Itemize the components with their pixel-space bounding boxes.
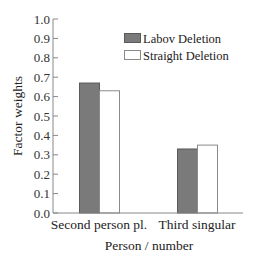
y-tick-label: 0.0 (34, 206, 50, 221)
x-axis-title: Person / number (105, 238, 194, 253)
bar-straight-deletion (100, 91, 120, 213)
x-axis: Second person pl.Third singular (51, 213, 243, 232)
y-axis-title: Factor weights (10, 76, 25, 156)
y-tick-label: 0.9 (34, 31, 50, 46)
bars (80, 83, 218, 213)
y-tick-label: 1.0 (34, 12, 50, 27)
y-tick-label: 0.2 (34, 167, 50, 182)
y-tick-label: 0.3 (34, 147, 50, 162)
bar-chart: 0.00.10.20.30.40.50.60.70.80.91.0 Second… (0, 0, 255, 263)
y-tick-label: 0.6 (34, 89, 51, 104)
legend-label: Straight Deletion (143, 49, 229, 63)
legend-label: Labov Deletion (143, 32, 222, 46)
legend-swatch (125, 51, 141, 60)
y-tick-label: 0.1 (34, 186, 50, 201)
legend-swatch (125, 34, 141, 43)
y-tick-label: 0.5 (34, 109, 50, 124)
legend: Labov DeletionStraight Deletion (125, 32, 230, 63)
bar-labov-deletion (80, 83, 100, 213)
x-tick-label: Third singular (159, 217, 236, 232)
y-tick-label: 0.4 (34, 128, 51, 143)
bar-straight-deletion (198, 145, 218, 213)
y-axis: 0.00.10.20.30.40.50.60.70.80.91.0 (34, 12, 58, 221)
y-tick-label: 0.8 (34, 50, 50, 65)
bar-labov-deletion (178, 149, 198, 213)
y-tick-label: 0.7 (34, 70, 51, 85)
x-tick-label: Second person pl. (51, 217, 147, 232)
